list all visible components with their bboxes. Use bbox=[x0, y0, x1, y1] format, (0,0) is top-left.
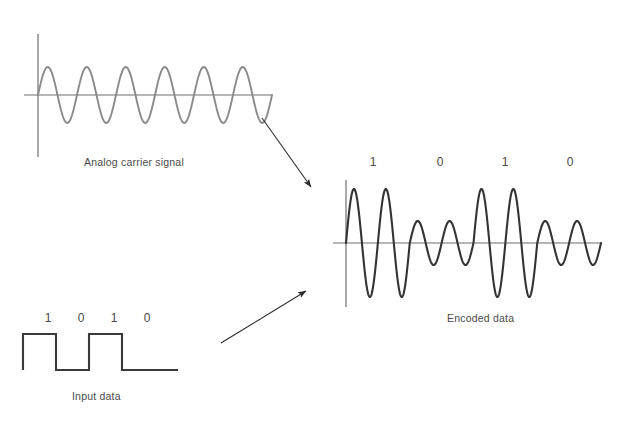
arrow-group bbox=[221, 118, 311, 343]
bit-label-encoded-0: 1 bbox=[363, 155, 383, 169]
bit-label-input-2: 1 bbox=[104, 311, 124, 325]
input-square-waveform bbox=[23, 334, 178, 370]
bit-label-encoded-2: 1 bbox=[495, 155, 515, 169]
bit-label-input-0: 1 bbox=[38, 311, 58, 325]
arrow-carrier-to-encoded bbox=[262, 118, 311, 187]
encoded-panel bbox=[333, 180, 601, 307]
caption-input-data: Input data bbox=[72, 390, 121, 402]
caption-analog-carrier-signal: Analog carrier signal bbox=[84, 156, 184, 168]
arrow-input-to-encoded bbox=[221, 291, 306, 343]
bit-label-input-1: 0 bbox=[71, 311, 91, 325]
diagram-canvas: Analog carrier signal Encoded data Input… bbox=[0, 0, 621, 432]
caption-encoded-data: Encoded data bbox=[447, 312, 514, 324]
input-panel bbox=[23, 334, 178, 370]
bit-label-encoded-3: 0 bbox=[560, 155, 580, 169]
bit-label-encoded-1: 0 bbox=[430, 155, 450, 169]
carrier-panel bbox=[24, 34, 272, 157]
diagram-svg bbox=[0, 0, 621, 432]
bit-label-input-3: 0 bbox=[137, 311, 157, 325]
